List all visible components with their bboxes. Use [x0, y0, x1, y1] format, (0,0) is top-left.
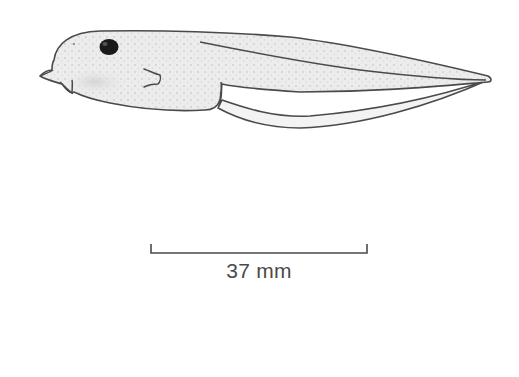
eye-icon	[100, 39, 119, 55]
eye-highlight	[103, 42, 108, 46]
nostril	[73, 43, 75, 45]
tadpole-illustration	[0, 0, 519, 377]
scale-bar-label: 37 mm	[151, 259, 367, 283]
scale-bar	[151, 244, 367, 253]
